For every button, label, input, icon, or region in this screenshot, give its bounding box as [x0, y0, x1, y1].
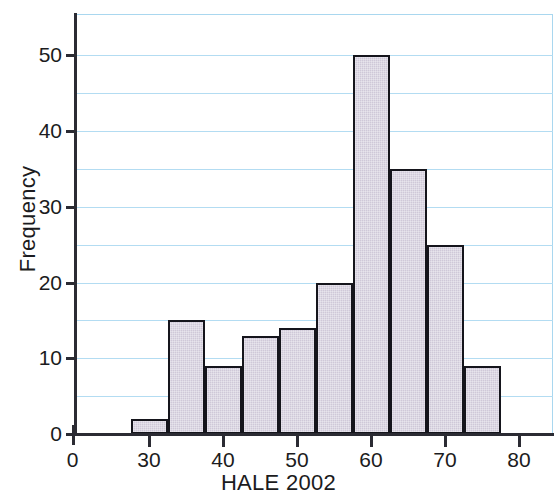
histogram-bar: [279, 328, 316, 434]
x-tick-mark: [296, 436, 299, 447]
histogram-bar: [390, 169, 427, 434]
plot-frame-top: [77, 14, 553, 15]
x-tick-label: 80: [494, 449, 544, 470]
histogram-bar: [242, 336, 279, 434]
y-axis-spine: [74, 13, 77, 436]
histogram-bar: [316, 283, 353, 435]
x-tick-mark: [222, 436, 225, 447]
x-tick-label: 0: [48, 449, 98, 470]
gridline: [77, 55, 553, 56]
gridline: [77, 131, 553, 132]
x-tick-label: 70: [420, 449, 470, 470]
y-axis-title: Frequency: [15, 89, 41, 349]
y-tick-label: 0: [22, 423, 62, 444]
histogram-bar: [464, 366, 501, 434]
histogram-bar: [131, 419, 168, 434]
gridline: [77, 93, 553, 94]
x-axis-spine: [74, 433, 554, 436]
x-tick-mark: [370, 436, 373, 447]
x-tick-label: 60: [346, 449, 396, 470]
histogram-bar: [168, 320, 205, 434]
y-tick-label: 10: [22, 347, 62, 368]
x-tick-label: 50: [272, 449, 322, 470]
x-tick-label: 30: [124, 449, 174, 470]
histogram-bar: [353, 55, 390, 434]
x-tick-label: 40: [198, 449, 248, 470]
x-tick-mark: [148, 436, 151, 447]
gridline: [77, 169, 553, 170]
y-tick-label: 50: [22, 44, 62, 65]
x-tick-mark: [518, 436, 521, 447]
gridline: [77, 207, 553, 208]
histogram-figure: 01020304050 0304050607080 Frequency HALE…: [0, 0, 557, 496]
plot-frame-right: [552, 14, 553, 434]
x-tick-mark: [444, 436, 447, 447]
x-axis-title: HALE 2002: [0, 470, 557, 496]
histogram-bar: [427, 245, 464, 434]
gridline: [77, 245, 553, 246]
histogram-bar: [205, 366, 242, 434]
